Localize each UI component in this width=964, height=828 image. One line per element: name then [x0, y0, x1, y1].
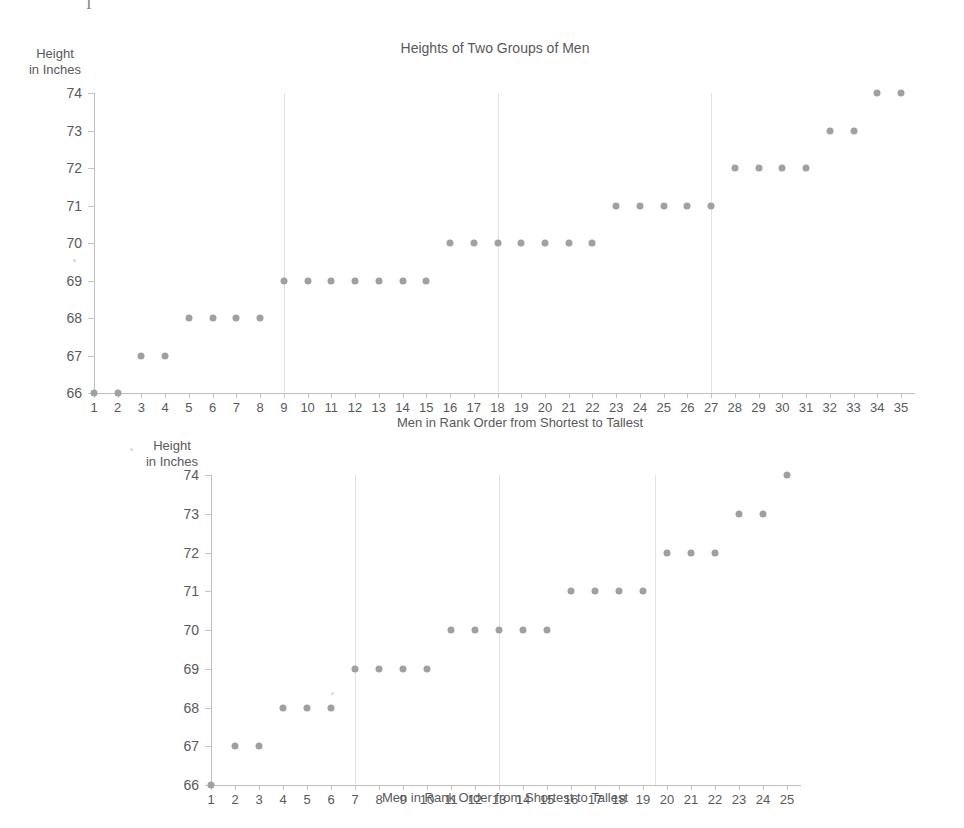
x-tick-mark	[595, 786, 596, 790]
x-tick-label: 3	[248, 792, 270, 807]
x-tick-label: 30	[771, 400, 793, 415]
y-tick-label: 73	[48, 123, 82, 139]
x-tick-mark	[427, 786, 428, 790]
x-tick-mark	[355, 394, 356, 398]
x-tick-label: 9	[392, 792, 414, 807]
x-tick-mark	[619, 786, 620, 790]
x-tick-mark	[616, 394, 617, 398]
data-point	[664, 549, 671, 556]
data-point	[660, 202, 667, 209]
x-tick-mark	[715, 786, 716, 790]
y-tick-label: 70	[165, 622, 199, 638]
y-tick-mark	[88, 131, 94, 132]
x-tick-label: 15	[536, 792, 558, 807]
x-tick-mark	[307, 786, 308, 790]
chart-1: Heights of Two Groups of Men Height in I…	[0, 0, 964, 435]
y-tick-label: 67	[48, 348, 82, 364]
x-tick-label: 20	[534, 400, 556, 415]
data-point	[541, 240, 548, 247]
data-point	[613, 202, 620, 209]
data-point	[874, 90, 881, 97]
x-tick-label: 18	[487, 400, 509, 415]
y-axis-line	[94, 93, 95, 393]
x-tick-mark	[403, 786, 404, 790]
y-tick-label: 66	[48, 385, 82, 401]
x-tick-label: 21	[558, 400, 580, 415]
y-tick-label: 66	[165, 777, 199, 793]
chart-1-plot-area: 6667686970717273741234567891011121314151…	[0, 0, 964, 435]
x-tick-label: 15	[415, 400, 437, 415]
x-tick-mark	[787, 786, 788, 790]
x-tick-label: 16	[439, 400, 461, 415]
x-tick-label: 34	[866, 400, 888, 415]
x-tick-mark	[189, 394, 190, 398]
x-tick-label: 2	[224, 792, 246, 807]
x-tick-mark	[451, 786, 452, 790]
data-point	[280, 277, 287, 284]
gridline-vertical	[711, 93, 712, 393]
x-tick-label: 2	[107, 400, 129, 415]
x-tick-mark	[569, 394, 570, 398]
chart-2: Height in Inches Men in Rank Order from …	[0, 435, 964, 828]
x-tick-mark	[165, 394, 166, 398]
data-point	[708, 202, 715, 209]
x-axis-line	[94, 393, 915, 394]
x-tick-mark	[592, 394, 593, 398]
data-point	[91, 390, 98, 397]
x-tick-label: 12	[464, 792, 486, 807]
x-tick-label: 25	[776, 792, 798, 807]
data-point	[784, 472, 791, 479]
y-tick-mark	[205, 630, 211, 631]
data-point	[185, 315, 192, 322]
y-tick-label: 70	[48, 235, 82, 251]
x-tick-mark	[643, 786, 644, 790]
x-tick-label: 12	[344, 400, 366, 415]
x-tick-label: 1	[200, 792, 222, 807]
x-tick-label: 13	[488, 792, 510, 807]
x-tick-label: 25	[653, 400, 675, 415]
y-tick-mark	[205, 591, 211, 592]
y-tick-label: 74	[165, 467, 199, 483]
x-tick-label: 26	[676, 400, 698, 415]
x-tick-mark	[379, 394, 380, 398]
x-tick-mark	[283, 786, 284, 790]
x-tick-label: 5	[296, 792, 318, 807]
x-tick-label: 14	[392, 400, 414, 415]
x-tick-mark	[259, 786, 260, 790]
x-tick-label: 8	[249, 400, 271, 415]
x-tick-label: 11	[320, 400, 342, 415]
x-tick-mark	[236, 394, 237, 398]
x-tick-label: 16	[560, 792, 582, 807]
x-tick-label: 22	[581, 400, 603, 415]
y-tick-label: 72	[165, 545, 199, 561]
data-point	[209, 315, 216, 322]
x-tick-mark	[379, 786, 380, 790]
x-tick-mark	[782, 394, 783, 398]
data-point	[640, 588, 647, 595]
x-tick-mark	[523, 786, 524, 790]
chart-2-plot-area: 6667686970717273741234567891011121314151…	[0, 435, 964, 828]
y-tick-label: 68	[48, 310, 82, 326]
x-tick-mark	[475, 786, 476, 790]
x-tick-label: 19	[632, 792, 654, 807]
data-point	[592, 588, 599, 595]
x-tick-label: 3	[130, 400, 152, 415]
x-tick-label: 9	[273, 400, 295, 415]
y-tick-label: 71	[165, 583, 199, 599]
y-tick-mark	[205, 553, 211, 554]
gridline-vertical	[655, 475, 656, 785]
y-tick-mark	[88, 318, 94, 319]
data-point	[850, 127, 857, 134]
data-point	[898, 90, 905, 97]
y-tick-label: 74	[48, 85, 82, 101]
x-tick-mark	[521, 394, 522, 398]
x-tick-mark	[759, 394, 760, 398]
x-tick-mark	[499, 786, 500, 790]
data-point	[447, 240, 454, 247]
y-tick-label: 73	[165, 506, 199, 522]
x-tick-label: 33	[843, 400, 865, 415]
data-point	[565, 240, 572, 247]
y-tick-label: 69	[165, 661, 199, 677]
data-point	[233, 315, 240, 322]
y-tick-mark	[88, 281, 94, 282]
